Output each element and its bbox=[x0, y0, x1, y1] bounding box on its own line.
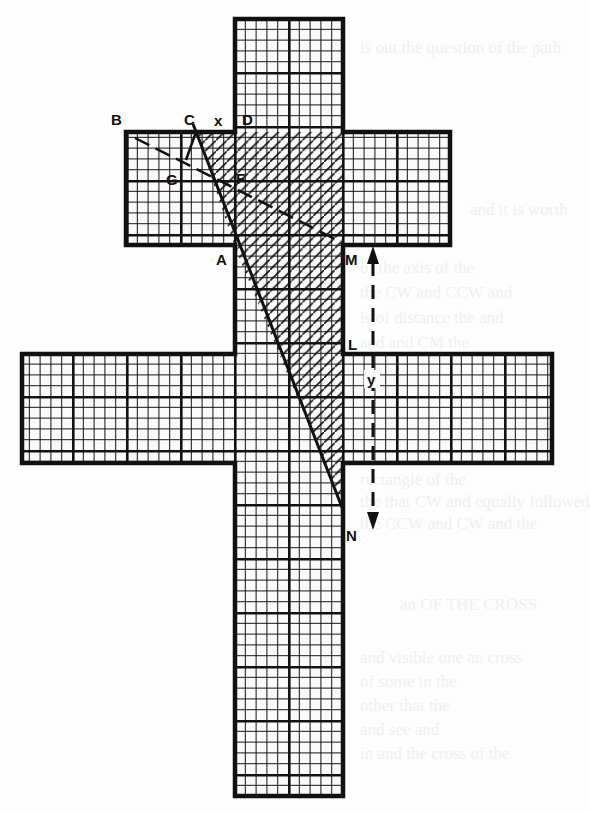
label-g: G bbox=[166, 171, 178, 188]
label-n: N bbox=[346, 527, 357, 544]
label-b: B bbox=[111, 111, 122, 128]
label-y: y bbox=[367, 371, 376, 388]
label-c: C bbox=[184, 111, 195, 128]
label-a: A bbox=[216, 251, 227, 268]
label-x: x bbox=[214, 112, 223, 129]
label-d: D bbox=[242, 111, 253, 128]
label-f: F bbox=[236, 170, 245, 187]
label-m: M bbox=[345, 251, 358, 268]
label-l: L bbox=[348, 336, 357, 353]
